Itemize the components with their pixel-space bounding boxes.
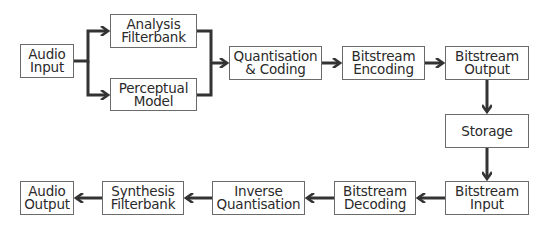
node-bitstream-input: Bitstream Input bbox=[445, 181, 529, 215]
node-label: Audio Output bbox=[24, 185, 70, 211]
node-audio-output: Audio Output bbox=[20, 181, 74, 215]
node-audio-input: Audio Input bbox=[20, 44, 74, 78]
node-analysis-filterbank: Analysis Filterbank bbox=[110, 14, 197, 48]
node-perceptual-model: Perceptual Model bbox=[110, 78, 197, 111]
node-label: Perceptual Model bbox=[119, 82, 188, 108]
node-label: Bitstream Output bbox=[455, 50, 519, 76]
node-label: Quantisation & Coding bbox=[234, 50, 318, 76]
node-synthesis-filterbank: Synthesis Filterbank bbox=[102, 181, 184, 215]
node-storage: Storage bbox=[445, 114, 529, 148]
node-bitstream-encoding: Bitstream Encoding bbox=[342, 46, 425, 80]
node-label: Bitstream Decoding bbox=[343, 185, 407, 211]
arrow-audio-to-analysis bbox=[74, 31, 107, 61]
node-label: Storage bbox=[461, 125, 512, 138]
node-label: Inverse Quantisation bbox=[217, 185, 301, 211]
node-inverse-quantisation: Inverse Quantisation bbox=[212, 181, 305, 215]
node-bitstream-output: Bitstream Output bbox=[445, 46, 529, 80]
node-label: Analysis Filterbank bbox=[121, 18, 186, 44]
node-label: Bitstream Input bbox=[455, 185, 519, 211]
codec-block-diagram: Audio Input Analysis Filterbank Perceptu… bbox=[0, 0, 544, 228]
node-bitstream-decoding: Bitstream Decoding bbox=[334, 181, 416, 215]
node-label: Audio Input bbox=[28, 48, 65, 74]
node-quantisation-coding: Quantisation & Coding bbox=[229, 46, 322, 80]
node-label: Synthesis Filterbank bbox=[111, 185, 176, 211]
arrow-audio-to-perceptual bbox=[88, 61, 107, 95]
arrow-analysis-to-quant bbox=[197, 31, 211, 95]
node-label: Bitstream Encoding bbox=[352, 50, 416, 76]
